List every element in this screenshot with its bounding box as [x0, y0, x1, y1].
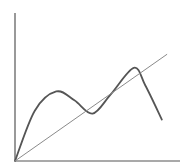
axes [15, 13, 180, 161]
series-curve [15, 68, 162, 161]
chart [0, 0, 185, 168]
series-line [15, 54, 167, 161]
series-group [15, 54, 167, 161]
